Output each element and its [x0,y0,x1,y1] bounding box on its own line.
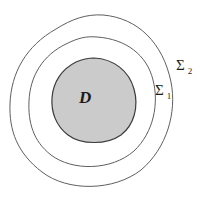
region-d-label: D [79,89,91,106]
sigma-1-subscript: 1 [167,91,172,101]
nested-surfaces-figure [0,0,206,197]
sigma-2-symbol: Σ [176,57,185,73]
region-d-shape [52,58,136,143]
sigma-2-label: Σ2 [176,58,192,76]
diagram-canvas: D Σ1 Σ2 [0,0,206,197]
sigma-1-symbol: Σ [155,82,164,98]
sigma-2-subscript: 2 [188,66,193,76]
sigma-1-label: Σ1 [155,83,171,101]
